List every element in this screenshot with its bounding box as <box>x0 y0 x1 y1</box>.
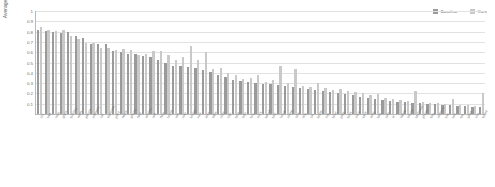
bar-group[interactable] <box>58 11 65 114</box>
bar-ours[interactable] <box>152 51 154 114</box>
bar-ours[interactable] <box>309 87 311 114</box>
bar-group[interactable] <box>186 11 193 114</box>
bar-group[interactable] <box>425 11 432 114</box>
bar-ours[interactable] <box>205 52 207 114</box>
bar-group[interactable] <box>268 11 275 114</box>
bar-ours[interactable] <box>250 78 252 114</box>
bar-ours[interactable] <box>242 79 244 114</box>
bar-group[interactable] <box>88 11 95 114</box>
bar-ours[interactable] <box>55 31 57 114</box>
bar-group[interactable] <box>350 11 357 114</box>
bar-group[interactable] <box>103 11 110 114</box>
bar-group[interactable] <box>276 11 283 114</box>
bar-ours[interactable] <box>130 50 132 114</box>
bar-ours[interactable] <box>70 36 72 114</box>
bar-group[interactable] <box>320 11 327 114</box>
bar-group[interactable] <box>133 11 140 114</box>
bar-group[interactable] <box>403 11 410 114</box>
bar-ours[interactable] <box>85 43 87 114</box>
bar-ours[interactable] <box>62 30 64 114</box>
bar-group[interactable] <box>208 11 215 114</box>
bar-ours[interactable] <box>235 75 237 114</box>
bar-ours[interactable] <box>175 60 177 114</box>
bar-group[interactable] <box>365 11 372 114</box>
bar-group[interactable] <box>478 11 485 114</box>
bar-group[interactable] <box>141 11 148 114</box>
bar-group[interactable] <box>448 11 455 114</box>
bar-group[interactable] <box>305 11 312 114</box>
bar-group[interactable] <box>261 11 268 114</box>
bar-ours[interactable] <box>324 88 326 114</box>
bar-group[interactable] <box>253 11 260 114</box>
bar-group[interactable] <box>290 11 297 114</box>
bar-group[interactable] <box>231 11 238 114</box>
bar-group[interactable] <box>201 11 208 114</box>
bar-ours[interactable] <box>160 51 162 114</box>
bar-group[interactable] <box>73 11 80 114</box>
bar-group[interactable] <box>343 11 350 114</box>
bar-ours[interactable] <box>257 75 259 114</box>
bar-group[interactable] <box>463 11 470 114</box>
bar-group[interactable] <box>313 11 320 114</box>
bar-group[interactable] <box>470 11 477 114</box>
bar-group[interactable] <box>81 11 88 114</box>
bar-group[interactable] <box>283 11 290 114</box>
bar-group[interactable] <box>148 11 155 114</box>
bar-ours[interactable] <box>115 50 117 114</box>
bar-ours[interactable] <box>40 27 42 114</box>
x-axis-label-cell: truck <box>253 116 261 186</box>
bar-ours[interactable] <box>92 43 94 114</box>
bar-group[interactable] <box>410 11 417 114</box>
bar-group[interactable] <box>36 11 43 114</box>
x-axis-label-cell: sign <box>223 116 231 186</box>
bar-group[interactable] <box>238 11 245 114</box>
bar-group[interactable] <box>51 11 58 114</box>
bar-group[interactable] <box>43 11 50 114</box>
bar-group[interactable] <box>246 11 253 114</box>
bar-group[interactable] <box>126 11 133 114</box>
bar-ours[interactable] <box>182 57 184 114</box>
bar-group[interactable] <box>335 11 342 114</box>
bar-ours[interactable] <box>302 86 304 114</box>
bar-group[interactable] <box>440 11 447 114</box>
bar-ours[interactable] <box>279 66 281 114</box>
bar-ours[interactable] <box>122 49 124 114</box>
bar-ours[interactable] <box>47 30 49 114</box>
bar-ours[interactable] <box>227 73 229 114</box>
bar-ours[interactable] <box>197 60 199 114</box>
bar-group[interactable] <box>433 11 440 114</box>
bar-ours[interactable] <box>145 54 147 114</box>
bar-group[interactable] <box>358 11 365 114</box>
bar-ours[interactable] <box>190 46 192 114</box>
bar-ours[interactable] <box>220 68 222 114</box>
bar-ours[interactable] <box>107 48 109 114</box>
bar-group[interactable] <box>373 11 380 114</box>
bar-ours[interactable] <box>77 39 79 114</box>
bar-ours[interactable] <box>137 55 139 114</box>
bar-group[interactable] <box>216 11 223 114</box>
bar-group[interactable] <box>455 11 462 114</box>
bar-ours[interactable] <box>392 99 394 114</box>
bar-ours[interactable] <box>212 69 214 114</box>
bar-group[interactable] <box>111 11 118 114</box>
bar-group[interactable] <box>66 11 73 114</box>
bar-group[interactable] <box>96 11 103 114</box>
bar-group[interactable] <box>193 11 200 114</box>
bar-group[interactable] <box>380 11 387 114</box>
bar-ours[interactable] <box>167 55 169 114</box>
bar-group[interactable] <box>156 11 163 114</box>
bar-group[interactable] <box>298 11 305 114</box>
bar-group[interactable] <box>118 11 125 114</box>
bar-ours[interactable] <box>100 48 102 114</box>
bar-group[interactable] <box>328 11 335 114</box>
bar-group[interactable] <box>178 11 185 114</box>
bar-group[interactable] <box>163 11 170 114</box>
bar-ours[interactable] <box>272 80 274 114</box>
bar-group[interactable] <box>223 11 230 114</box>
bar-ours[interactable] <box>294 69 296 114</box>
bar-group[interactable] <box>388 11 395 114</box>
bar-group[interactable] <box>171 11 178 114</box>
bar-group[interactable] <box>418 11 425 114</box>
bar-group[interactable] <box>395 11 402 114</box>
bar-ours[interactable] <box>265 82 267 114</box>
